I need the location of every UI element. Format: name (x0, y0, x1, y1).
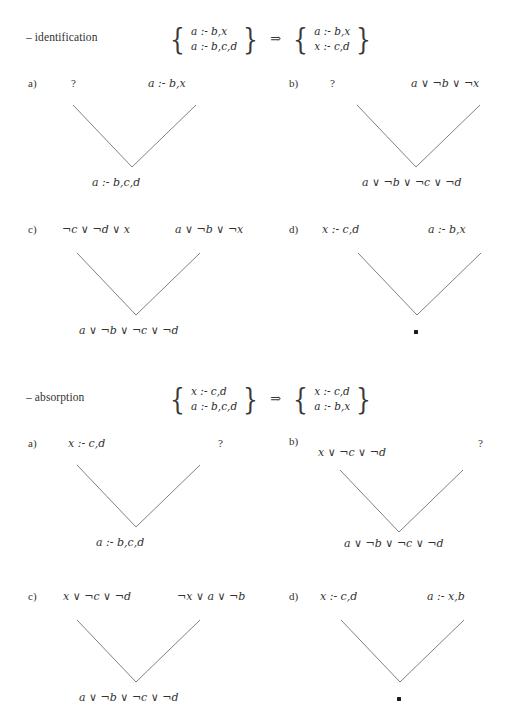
resolution-v-abs-d (0, 0, 522, 726)
figure-page: – identification { a :- b,x a :- b,c,d }… (0, 0, 522, 726)
empty-clause-abs-d (397, 697, 401, 701)
